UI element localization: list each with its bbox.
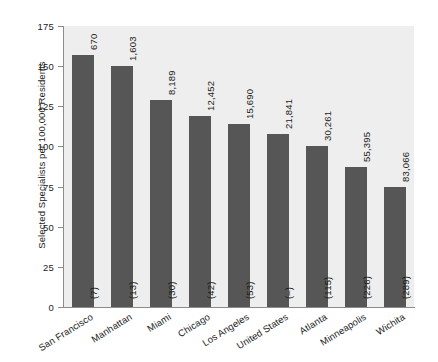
bar — [111, 66, 133, 307]
bar-value-label: 1,603 — [127, 36, 138, 61]
y-axis-tick-label: 175 — [14, 21, 54, 32]
bar — [267, 134, 289, 307]
bar-value-label: 670 — [88, 33, 99, 49]
bar-rank-label: (13) — [127, 281, 138, 299]
bar-value-label: 55,395 — [361, 132, 372, 162]
y-axis-title: Selected Specialists per 100,000 Residen… — [31, 10, 53, 300]
bar-value-label: 15,690 — [244, 89, 255, 119]
x-axis-category-label: San Francisco — [0, 311, 95, 362]
y-axis-tick — [58, 146, 64, 147]
bar-value-label: 83,066 — [400, 151, 411, 181]
bar-rank-label: (226) — [361, 276, 372, 299]
y-axis-tick-label: 125 — [14, 101, 54, 112]
y-axis-tick-label: 50 — [14, 221, 54, 232]
y-axis-tick-label: 25 — [14, 261, 54, 272]
bar-rank-label: (–) — [283, 287, 294, 299]
y-axis-tick-label: 100 — [14, 141, 54, 152]
y-axis-tick — [58, 106, 64, 107]
y-axis-tick-label: 0 — [14, 302, 54, 313]
bar-value-label: 21,841 — [283, 98, 294, 128]
bar-value-label: 8,189 — [166, 70, 177, 95]
y-axis-tick — [58, 66, 64, 67]
bar-rank-label: (42) — [205, 281, 216, 299]
bar — [150, 100, 172, 307]
y-axis-tick — [58, 227, 64, 228]
y-axis-tick — [58, 267, 64, 268]
bar-rank-label: (7) — [88, 287, 99, 299]
bar-rank-label: (30) — [166, 281, 177, 299]
y-axis-line — [63, 26, 64, 308]
bar — [228, 124, 250, 307]
bar-value-label: 30,261 — [322, 111, 333, 141]
y-axis-tick — [58, 307, 64, 308]
bar — [189, 116, 211, 307]
bar-rank-label: (115) — [322, 277, 333, 299]
y-axis-tick — [58, 187, 64, 188]
bar-rank-label: (53) — [244, 281, 255, 299]
bar-value-label: 12,452 — [205, 81, 216, 111]
y-axis-tick-label: 150 — [14, 61, 54, 72]
bar — [72, 55, 94, 307]
bar-rank-label: (289) — [400, 276, 411, 299]
x-axis-line — [63, 307, 415, 308]
y-axis-tick — [58, 26, 64, 27]
y-axis-tick-label: 75 — [14, 181, 54, 192]
bar-chart-figure: Selected Specialists per 100,000 Residen… — [0, 0, 438, 362]
